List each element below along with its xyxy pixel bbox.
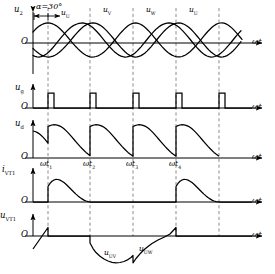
curve-label-uV: uV bbox=[103, 6, 111, 16]
time-marker-2: ωt2 bbox=[83, 160, 95, 170]
ud-waveform bbox=[33, 125, 219, 157]
ivt-origin-label: O bbox=[21, 196, 28, 205]
uvt-time-axis-label: ωt bbox=[252, 231, 262, 239]
panel-thyristor-current bbox=[25, 168, 262, 202]
panel-thyristor-voltage bbox=[25, 214, 262, 263]
gate-origin-label: O bbox=[21, 102, 28, 111]
time-marker-3: ωt3 bbox=[126, 160, 138, 170]
arc-label-uUW: uUW bbox=[139, 245, 153, 255]
supply-time-axis-label: ωt bbox=[252, 38, 262, 46]
arc-label-uUV: uUV bbox=[104, 249, 116, 259]
ud-axis-label: ud bbox=[15, 119, 24, 130]
supply-sine-curves bbox=[33, 23, 242, 57]
panel-dc-output bbox=[25, 120, 262, 158]
curve-label-uW: uW bbox=[146, 6, 156, 16]
ud-time-axis-label: ωt bbox=[252, 153, 262, 161]
curve-label-uU: uU bbox=[61, 9, 70, 19]
time-marker-1: ωt1 bbox=[40, 160, 52, 170]
ivt-axis-label: iVT1 bbox=[2, 165, 15, 176]
supply-origin-label: O bbox=[21, 37, 28, 46]
panel-supply bbox=[25, 12, 262, 74]
time-marker-4: ωt4 bbox=[169, 160, 181, 170]
alpha-dimension bbox=[34, 13, 60, 20]
uvt-axis-label: uVT1 bbox=[0, 211, 16, 222]
uvt-origin-label: O bbox=[21, 230, 28, 239]
gate-time-axis-label: ωt bbox=[252, 103, 262, 111]
curve-label-uU-second: uU bbox=[189, 6, 198, 16]
ivt-time-axis-label: ωt bbox=[252, 197, 262, 205]
ud-origin-label: O bbox=[21, 152, 28, 161]
firing-angle-label: α=30° bbox=[36, 3, 62, 11]
gate-pulse-train bbox=[33, 93, 252, 108]
supply-axis-label: u2 bbox=[14, 5, 23, 16]
gate-axis-label: ug bbox=[15, 83, 24, 94]
waveform-figure: u2 O ωt α=30° uU uV uW uU ug O ωt ud O ω… bbox=[0, 0, 275, 274]
waveform-svg bbox=[0, 0, 275, 274]
panel-gate bbox=[25, 84, 262, 108]
